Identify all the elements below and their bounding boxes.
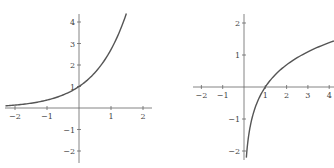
logarithm-graph: −2 −1 1 2 3 4 2 1 −1 −2 — [193, 14, 334, 160]
exponential-curve — [5, 14, 126, 106]
y-tick-label: 2 — [70, 61, 75, 70]
x-tick-label: 2 — [140, 112, 145, 121]
x-tick-label: 1 — [263, 91, 268, 100]
y-tick-label: −1 — [63, 126, 75, 135]
x-tick-label: −1 — [217, 91, 229, 100]
y-tick-label: 3 — [70, 40, 75, 49]
x-tick-label: 1 — [108, 112, 113, 121]
exponential-graph: −2 −1 1 2 4 3 2 1 −1 −2 — [5, 14, 152, 163]
x-tick-label: 4 — [327, 91, 332, 100]
x-tick-label: −2 — [196, 91, 208, 100]
y-tick-label: 2 — [235, 19, 240, 28]
logarithm-curve — [246, 41, 334, 158]
y-tick-label: 4 — [70, 18, 75, 27]
y-tick-label: −2 — [228, 147, 240, 156]
y-tick-label: 1 — [235, 51, 240, 60]
figure: −2 −1 1 2 4 3 2 1 −1 −2 −2 −1 — [0, 0, 334, 168]
x-tick-label: 3 — [305, 91, 310, 100]
x-tick-label: −1 — [41, 112, 53, 121]
y-tick-label: −1 — [228, 115, 240, 124]
y-tick-label: −2 — [63, 147, 75, 156]
x-tick-label: −2 — [9, 112, 21, 121]
x-tick-label: 2 — [284, 91, 289, 100]
